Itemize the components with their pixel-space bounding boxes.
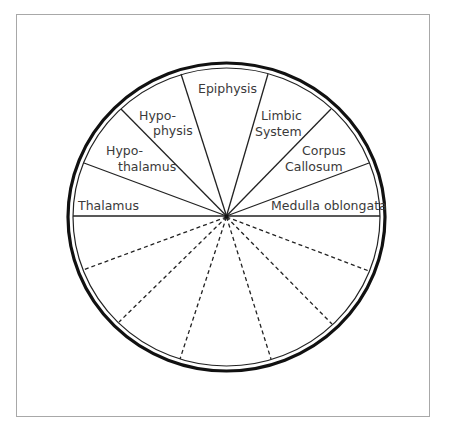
- label-limbic-line2: System: [255, 124, 302, 139]
- label-limbic-line1: Limbic: [261, 108, 302, 123]
- label-medulla-oblongata: Medulla oblongata: [271, 198, 387, 213]
- label-hypophysis-line2: physis: [153, 123, 193, 138]
- label-thalamus: Thalamus: [77, 198, 139, 213]
- label-corpus-line2: Callosum: [285, 159, 343, 174]
- brain-wheel-diagram: Thalamus Hypo- thalamus Hypo- physis Epi…: [0, 0, 449, 438]
- label-hypophysis-line1: Hypo-: [139, 108, 176, 123]
- label-corpus-line1: Corpus: [302, 143, 346, 158]
- center-hub: [225, 215, 229, 219]
- label-hypothalamus-line1: Hypo-: [106, 143, 143, 158]
- label-epiphysis: Epiphysis: [198, 81, 257, 96]
- label-hypothalamus-line2: thalamus: [118, 159, 176, 174]
